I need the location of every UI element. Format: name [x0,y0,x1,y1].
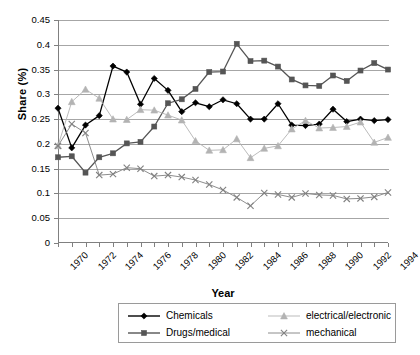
data-point [192,138,199,144]
diamond-icon [127,309,161,323]
data-point [55,105,61,111]
data-point [192,177,198,183]
data-point [82,86,89,92]
legend-label: electrical/electronic [306,310,391,321]
data-point [82,130,88,136]
data-point [220,97,226,103]
data-point [220,187,226,193]
data-point [289,77,294,82]
legend-label: mechanical [306,327,357,338]
data-point [138,139,143,144]
data-point [358,68,363,73]
cross-icon [267,326,301,340]
data-point [386,67,391,72]
legend-item[interactable]: Drugs/medical [127,324,230,341]
data-point [371,117,377,123]
data-point [111,151,116,156]
data-point [289,194,295,200]
data-point [179,97,184,102]
data-point [344,78,349,83]
data-point [372,61,377,66]
data-point [247,203,253,209]
data-point [288,126,295,132]
data-point [302,117,309,123]
data-point [317,83,322,88]
data-point [152,124,157,129]
series-line [58,124,388,206]
data-point [69,145,75,151]
data-point [110,63,116,69]
data-point [234,194,240,200]
data-point [385,117,391,123]
data-point [331,73,336,78]
chart-legend: Chemicalselectrical/electronicDrugs/medi… [118,303,396,343]
data-point [248,59,253,64]
data-point [96,95,103,101]
data-point [385,189,391,195]
data-point [56,155,61,160]
data-point [247,154,254,160]
data-point [233,136,240,142]
data-point [371,139,378,145]
data-point [124,141,129,146]
data-point [193,86,198,91]
data-point [166,101,171,106]
legend-item[interactable]: mechanical [267,324,357,341]
data-point [303,83,308,88]
series-line [58,44,388,173]
legend-item[interactable]: electrical/electronic [267,307,391,324]
data-point [206,104,212,110]
data-point [165,112,172,118]
data-point [69,154,74,159]
data-point [234,41,239,46]
data-point [385,134,392,140]
series-mechanical [55,121,391,209]
data-point [83,170,88,175]
legend-label: Chemicals [166,310,213,321]
triangle-icon [267,309,301,323]
data-point [207,70,212,75]
data-point [276,64,281,69]
data-point [221,69,226,74]
data-point [262,58,267,63]
legend-item[interactable]: Chemicals [127,307,213,324]
data-point [69,121,75,127]
data-point [178,117,185,123]
data-point [124,69,130,75]
square-icon [127,326,161,340]
data-point [206,181,212,187]
legend-label: Drugs/medical [166,327,230,338]
data-point [97,155,102,160]
